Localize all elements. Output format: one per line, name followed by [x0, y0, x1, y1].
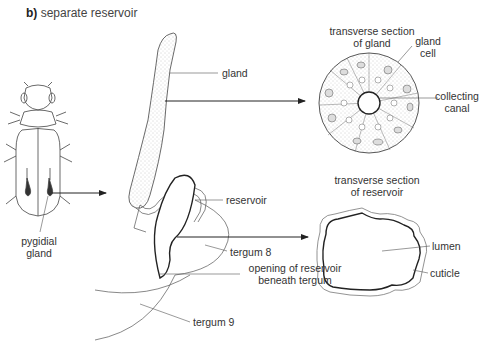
- collecting-canal-label: collecting canal: [432, 90, 482, 114]
- beetle-illustration: [4, 82, 72, 216]
- ts-reservoir-line2: of reservoir: [322, 186, 432, 198]
- cuticle-label: cuticle: [430, 267, 460, 279]
- gland-shape: [129, 33, 177, 208]
- opening-label: opening of reservoir beneath tergum: [240, 262, 350, 286]
- tergum9-pointer: [140, 304, 190, 322]
- gland-cross-section: [319, 46, 438, 153]
- lumen-label: lumen: [432, 240, 461, 252]
- pygidial-label-line1: pygidial: [14, 235, 64, 247]
- pygidial-label-line2: gland: [14, 247, 64, 259]
- reservoir-shape: [154, 175, 195, 278]
- pygidial-gland-diagram: b) separate reservoir: [0, 0, 483, 346]
- gland-cell-label: gland cell: [408, 35, 448, 59]
- tergum9-label: tergum 9: [193, 316, 234, 328]
- tergum8-label: tergum 8: [230, 246, 271, 258]
- gland-cell-line1: gland: [408, 35, 448, 47]
- collecting-line2: canal: [432, 102, 482, 114]
- tergum8-pointer: [205, 245, 227, 251]
- reservoir-label: reservoir: [226, 194, 267, 206]
- ts-reservoir-line1: transverse section: [322, 174, 432, 186]
- opening-label-line2: beneath tergum: [240, 274, 350, 286]
- ts-reservoir-label: transverse section of reservoir: [322, 174, 432, 198]
- collecting-line1: collecting: [432, 90, 482, 102]
- opening-label-line1: opening of reservoir: [240, 262, 350, 274]
- pygidial-gland-label: pygidial gland: [14, 235, 64, 259]
- gland-label: gland: [222, 67, 248, 79]
- gland-cell-line2: cell: [408, 47, 448, 59]
